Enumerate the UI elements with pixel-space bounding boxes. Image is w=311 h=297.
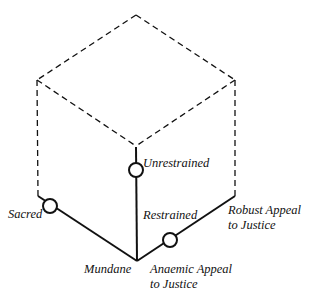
axis-markers [43, 163, 177, 247]
label-robust-2: to Justice [228, 218, 276, 232]
label-robust-1: Robust Appeal [228, 203, 301, 217]
label-sacred: Sacred [8, 207, 42, 221]
label-restrained: Restrained [143, 208, 197, 222]
cube-diagram [0, 0, 311, 297]
label-mundane: Mundane [84, 262, 131, 276]
right-axis [137, 196, 235, 261]
label-unrestrained: Unrestrained [143, 156, 209, 170]
label-anaemic-2: to Justice [150, 277, 198, 291]
unrestrained-marker [129, 163, 143, 177]
sacred-marker [43, 199, 57, 213]
label-anaemic-1: Anaemic Appeal [150, 262, 232, 276]
anaemic-marker [163, 233, 177, 247]
